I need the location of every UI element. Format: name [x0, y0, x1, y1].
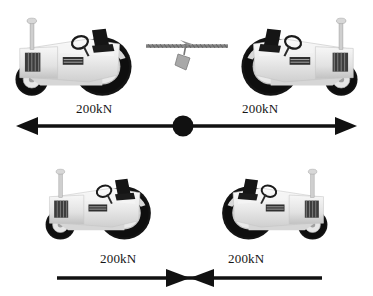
force-label-top-right: 200kN — [242, 102, 278, 115]
center-dot — [173, 116, 194, 137]
force-label-bottom-left: 200kN — [100, 252, 136, 265]
force-label-bottom-right: 200kN — [228, 252, 264, 265]
tension-force-arrow — [0, 0, 373, 148]
arrowhead-right — [335, 117, 357, 135]
panel-compression-case: 200kN 200kN — [0, 148, 373, 296]
panel-tension-case: 200kN 200kN — [0, 0, 373, 148]
arrowhead-left — [16, 117, 38, 135]
arrowhead-inward-left — [166, 269, 190, 287]
figure-canvas: 200kN 200kN 200kN 200kN — [0, 0, 373, 296]
arrowhead-inward-right — [190, 269, 214, 287]
compression-force-arrow — [0, 148, 373, 296]
force-label-top-left: 200kN — [76, 102, 112, 115]
